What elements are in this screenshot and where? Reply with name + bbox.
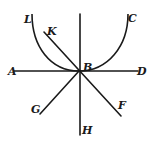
point-label-l: L	[24, 14, 32, 25]
point-label-f: F	[118, 100, 126, 111]
point-label-d: D	[137, 66, 147, 77]
point-label-a: A	[8, 66, 17, 77]
point-label-g: G	[31, 104, 40, 115]
line-kf	[44, 32, 121, 116]
point-label-b: B	[83, 62, 92, 73]
point-label-c: C	[128, 13, 137, 24]
lines-group	[14, 14, 138, 135]
point-label-h: H	[82, 125, 92, 136]
line-gb	[40, 71, 79, 114]
point-label-k: K	[47, 26, 57, 37]
